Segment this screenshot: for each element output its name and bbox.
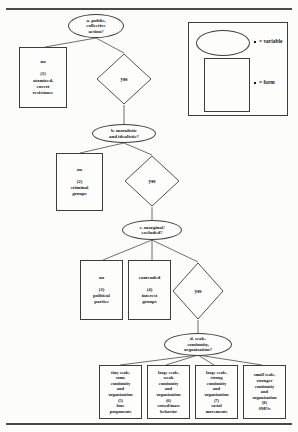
branch-yes-b-label: yes [124,155,180,207]
outcome-1-name-line-3: resistance [33,90,54,96]
outcome-2-name-line-2: groups [71,191,89,197]
branch-yes-a-label: yes [96,53,152,105]
legend-variable-label: = variable [259,38,282,44]
legend-rect-shape [204,58,250,112]
outcome-4-answer: contended [139,275,160,281]
decision-d-line-3: organization? [184,347,212,352]
outcome-box-7-social-movements[interactable]: large scale, strong continuity and organ… [195,365,238,419]
outcome-4-name-line-2: groups [139,299,160,305]
outcome-2-answer: no [71,167,89,173]
outcome-box-5-lone-proponents[interactable]: tiny scale, some continuity and organiza… [99,365,142,419]
figure-sheet: = variable = form a. public, collective … [0,0,298,432]
outcome-5-name-line-2: proponents [108,409,132,415]
branch-yes-c[interactable]: yes [172,262,224,320]
outcome-3-answer: no [93,275,110,281]
outcome-box-8-smos[interactable]: small scale, stronger continuity and org… [243,365,286,419]
legend-ellipse-shape [196,30,250,56]
decision-b-line-1: b. moralistic [109,128,139,133]
decision-b-moralistic-idealistic[interactable]: b. moralistic and idealistic? [92,124,156,143]
outcome-box-4-interest-groups[interactable]: contended . (4) interest groups [128,260,171,320]
decision-c-marginal-excluded[interactable]: c. marginal/ excluded? [122,220,182,240]
outcome-5-desc-line-5: organization [108,392,132,398]
decision-a-line-2: collective [86,23,105,28]
outcome-box-3-political-parties[interactable]: no . (3) political parties [80,260,123,320]
decision-b-line-2: and idealistic? [109,134,139,139]
bottom-rule [6,423,292,425]
top-rule [6,8,292,10]
branch-yes-b[interactable]: yes [124,155,180,207]
branch-yes-c-label: yes [172,262,224,320]
legend-form-bullet [254,82,256,84]
legend-variable-bullet [254,41,256,43]
outcome-8-name-line-1: SMOs [252,406,276,412]
outcome-6-name-line-2: behavior [156,409,180,415]
decision-a-line-3: action? [86,29,105,34]
outcome-7-desc-line-5: organization [204,392,228,398]
decision-d-scale-continuity-organization[interactable]: d. scale, continuity, organization? [164,333,232,356]
outcome-6-desc-line-5: organization [156,392,180,398]
outcome-box-2-criminal-groups[interactable]: no . (2) criminal groups [56,153,103,211]
legend-form-label: = form [259,79,275,85]
outcome-1-answer: no [33,59,54,65]
outcome-box-6-crowd-mass-behavior[interactable]: large scale, weak continuity and organiz… [147,365,190,419]
decision-c-line-2: excluded? [140,230,165,235]
branch-yes-a[interactable]: yes [96,53,152,105]
outcome-box-1-atomized-covert-resistance[interactable]: no . (1) atomized, covert resistance [19,47,67,108]
decision-a-public-collective-action[interactable]: a. public, collective action? [68,14,124,38]
outcome-7-name-line-2: movements [204,409,228,415]
outcome-1-name-line-1: atomized, [33,78,54,84]
outcome-3-name-line-2: parties [93,299,110,305]
